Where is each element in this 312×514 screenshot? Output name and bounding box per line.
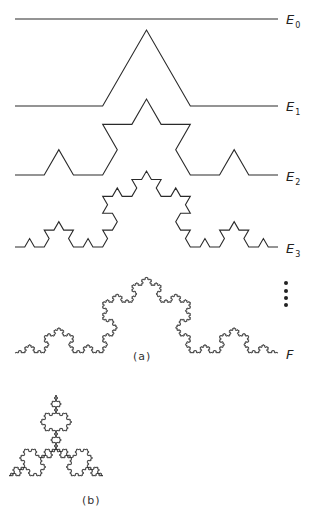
caption-b: (b) bbox=[82, 495, 101, 506]
koch-snowflake bbox=[9, 395, 103, 476]
ellipsis-dot bbox=[284, 289, 288, 293]
koch-curve-limit-f bbox=[15, 277, 278, 353]
caption-a: (a) bbox=[133, 351, 151, 362]
koch-curve-e3 bbox=[15, 171, 278, 247]
label-f: F bbox=[286, 348, 293, 361]
label-e2: E2 bbox=[286, 170, 300, 187]
koch-curve-e2 bbox=[15, 99, 278, 175]
label-e1: E1 bbox=[286, 100, 300, 117]
ellipsis-dot bbox=[284, 303, 288, 307]
label-e3: E3 bbox=[286, 242, 300, 259]
ellipsis-dot bbox=[284, 296, 288, 300]
koch-construction-diagram bbox=[0, 0, 312, 514]
label-e0: E0 bbox=[286, 13, 300, 30]
koch-curve-e1 bbox=[15, 30, 278, 106]
ellipsis-dot bbox=[284, 281, 288, 285]
